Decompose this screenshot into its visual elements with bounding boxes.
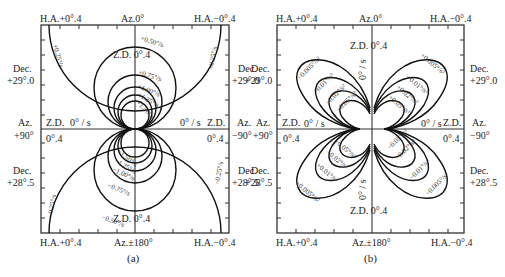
panel-b-right-dec-top-2: +29°.0 — [470, 75, 497, 86]
panel-a-bottom-left-label: H.A.+0°.4 — [40, 237, 82, 248]
panel-a-right-dec-top-1: Dec. — [238, 63, 257, 74]
panel-b-zero-right: 0° / s — [421, 118, 442, 129]
label-m075: −0.75°/s — [106, 181, 131, 197]
panel-a-left-az-2: +90° — [14, 130, 34, 141]
figure: H.A.+0°.4 Az.0° H.A.−0°.4 H.A.+0°.4 Az.±… — [0, 0, 505, 277]
panel-a-right-dec-top-2: +29°.0 — [232, 75, 259, 86]
label-p025-right: +0.25°/s — [207, 45, 219, 70]
panel-b-bottom-left-label: H.A.+0°.4 — [276, 237, 318, 248]
panel-a: H.A.+0°.4 Az.0° H.A.−0°.4 H.A.+0°.4 Az.±… — [7, 13, 252, 265]
panel-b-zd-right: Z.D. — [443, 117, 461, 128]
panel-b-top-left-label: H.A.+0°.4 — [276, 13, 318, 24]
panel-a-deg-right: 0°.4 — [207, 133, 224, 144]
panel-a-bottom-center-label: Az.±180° — [114, 237, 153, 248]
panel-a-top-left-label: H.A.+0°.4 — [40, 13, 82, 24]
panel-a-zd-top: Z.D. 0°.4 — [113, 49, 150, 60]
panel-a-right-az-1: Az. — [237, 117, 251, 128]
label-m025-left: −0.25°/s — [46, 193, 58, 218]
panel-b-top-right-label: H.A.−0°.4 — [430, 13, 472, 24]
panel-a-bottom-right-label: H.A.−0°.4 — [194, 237, 236, 248]
panel-b-zd-bottom: Z.D. 0°.4 — [350, 205, 387, 216]
panel-a-top-right-label: H.A.−0°.4 — [194, 13, 236, 24]
panel-a-caption: (a) — [127, 252, 140, 265]
label-p025-left: +0.25°/s — [51, 43, 65, 68]
label-p075: +0.75°/s — [137, 68, 162, 83]
panel-b-right-az-2: −90° — [470, 130, 490, 141]
panel-b-bottom-right-label: H.A.−0°.4 — [431, 237, 473, 248]
panel-a-left-dec-bottom-2: +28°.5 — [7, 177, 34, 188]
panel-a-zd-left: Z.D. — [46, 117, 64, 128]
panel-a-right-az-2: −90° — [232, 130, 252, 141]
panel-a-right-dec-bottom-2: +28°.5 — [232, 177, 259, 188]
panel-a-top-center-label: Az.0° — [121, 13, 144, 24]
panel-b-zd-top: Z.D. 0°.4 — [350, 40, 387, 51]
panel-a-zero-left: 0° / s — [70, 117, 91, 128]
panel-b-zd-left: Z.D. — [282, 117, 300, 128]
panel-a-zero-right: 0° / s — [180, 117, 201, 128]
panel-b-deg-left: 0°.4 — [283, 133, 300, 144]
panel-b-right-az-1: Az. — [472, 117, 486, 128]
panel-b-deg-right: 0°.4 — [443, 133, 460, 144]
panel-b-top-center-label: Az.0° — [359, 13, 382, 24]
label-ll-0005: +0.005°/s² — [294, 179, 322, 204]
panel-b-zero-vert-bottom: 0° / s — [357, 179, 368, 200]
panel-a-left-az-1: Az. — [18, 117, 32, 128]
label-lr-0005: −0.005°/s² — [424, 171, 450, 197]
panel-a-zd-right: Z.D. — [207, 117, 225, 128]
panel-b-left-az-1: Az. — [256, 117, 270, 128]
panel-b: H.A.+0°.4 Az.0° H.A.−0°.4 H.A.+0°.4 Az.±… — [245, 13, 497, 265]
panel-a-left-dec-top-2: +29°.0 — [7, 75, 34, 86]
label-p050: +0.50°/s — [139, 34, 164, 49]
panel-b-bottom-center-label: Az.±180° — [352, 237, 391, 248]
panel-a-deg-left: 0°.4 — [46, 133, 63, 144]
panel-b-zero-left: 0° / s — [304, 118, 325, 129]
label-m025-right: −0.25°/s — [213, 160, 225, 185]
panel-b-right-dec-bottom-1: Dec. — [470, 165, 489, 176]
panel-b-right-dec-bottom-2: +28°.5 — [470, 177, 497, 188]
panel-b-left-az-2: +90° — [253, 130, 273, 141]
panel-a-right-dec-bottom-1: Dec. — [238, 165, 257, 176]
panel-b-right-dec-top-1: Dec. — [470, 63, 489, 74]
panel-b-caption: (b) — [364, 252, 377, 265]
panel-b-zero-vert-top: 0° / s — [357, 59, 368, 80]
panel-a-left-dec-bottom-1: Dec. — [13, 165, 32, 176]
panel-a-left-dec-top-1: Dec. — [13, 63, 32, 74]
